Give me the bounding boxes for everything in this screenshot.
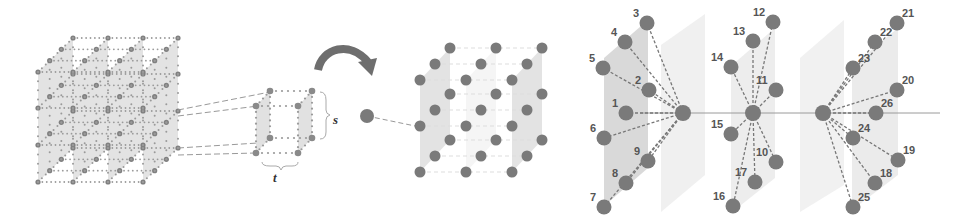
neighbor-label-22: 22 [880,26,892,38]
neighbor-label-6: 6 [590,122,596,134]
neighbor-label-11: 11 [756,74,768,86]
cube-node [491,135,502,146]
neighbor-label-17: 17 [735,166,747,178]
cube-node [309,88,316,95]
neighbor-node-8 [619,176,634,191]
neighbor-label-12: 12 [753,6,765,18]
cube-node [491,89,502,100]
neighbor-node-3 [640,16,655,31]
neighbor-label-16: 16 [713,190,725,202]
neighbor-node-9 [641,154,656,169]
cube-node [522,151,533,162]
brace-s [320,92,330,139]
neighbor-node-6 [597,131,612,146]
cube-node [522,59,533,70]
neighbor-label-3: 3 [633,7,639,19]
cube-node [476,59,487,70]
cube-node [253,103,260,110]
cube-node [295,103,302,110]
cube-node [445,89,456,100]
neighbor-label-15: 15 [711,118,723,130]
cube-node [507,121,518,132]
neighbor-node-14 [724,60,739,75]
neighbor-label-14: 14 [711,51,724,63]
cube-node [430,59,441,70]
cube-node [309,135,316,142]
neighbor-label-8: 8 [612,167,618,179]
neighbor-label-25: 25 [858,191,870,203]
neighbor-label-9: 9 [634,145,640,157]
neighbor-label-21: 21 [902,7,914,19]
neighbor-label-4: 4 [611,26,618,38]
neighbor-label-1: 1 [612,97,618,109]
link-line [367,116,420,127]
graph-neighbors: 1234567891011121314151617181920212223242… [589,6,940,215]
neighbor-label-13: 13 [733,25,745,37]
projection-line [178,153,256,155]
cube-node [522,105,533,116]
cube-node [445,43,456,54]
neighbor-node-12 [766,15,781,30]
cube-node [491,43,502,54]
center-node-1 [675,105,691,121]
cube-node [430,105,441,116]
cube-node [267,135,274,142]
cube-node [507,167,518,178]
neighbor-label-19: 19 [903,144,915,156]
neighbor-node-11 [769,83,784,98]
cube-node [267,88,274,95]
cube-node [476,151,487,162]
cube-node [253,150,260,157]
cube-node [476,105,487,116]
cube-node [430,151,441,162]
slab [38,38,73,182]
figure: 1234567891011121314151617181920212223242… [0,0,957,222]
slab [298,91,312,153]
neighbor-node-2 [642,83,657,98]
neighbor-node-13 [746,34,761,49]
neighbor-node-17 [748,175,763,190]
label-s: s [332,112,338,127]
cube-node [507,75,518,86]
cube-node [415,75,426,86]
neighbor-label-18: 18 [880,167,892,179]
cube-node [537,43,548,54]
slab [108,38,143,182]
spatiotemporal-volume [35,35,270,184]
local-cube [253,88,330,170]
neighbor-node-15 [724,127,739,142]
cube-node [537,135,548,146]
neighbor-node-5 [596,61,611,76]
neighbor-label-10: 10 [756,146,768,158]
slab [256,91,270,153]
cube-node [537,89,548,100]
slab [143,38,178,182]
neighbor-node-10 [769,155,784,170]
neighbor-label-5: 5 [589,52,595,64]
neighborhood-cube [360,43,548,178]
neighbor-node-7 [597,200,612,215]
neighbor-label-24: 24 [858,122,871,134]
cube-node [461,167,472,178]
neighbor-label-23: 23 [858,52,870,64]
neighbor-label-20: 20 [902,74,914,86]
cube-node [415,167,426,178]
neighbor-label-26: 26 [881,97,893,109]
cube-node [461,121,472,132]
center-node-3 [815,105,831,121]
brace-t [262,162,298,170]
projection-line [178,143,258,148]
neighbor-label-2: 2 [635,74,641,86]
source-node [360,109,374,123]
neighbor-label-7: 7 [590,191,596,203]
neighbor-node-1 [619,106,634,121]
center-node-2 [745,105,761,121]
slab [73,38,108,182]
neighbor-node-16 [726,199,741,214]
neighbor-node-4 [618,35,633,50]
cube-node [445,135,456,146]
cube-node [461,75,472,86]
label-t: t [273,170,277,185]
curved-arrow-icon [318,49,377,76]
cube-node [415,121,426,132]
